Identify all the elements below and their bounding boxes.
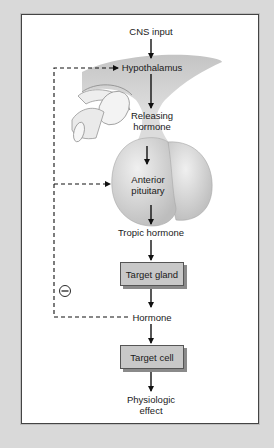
negative-feedback-icon (60, 286, 71, 297)
label-releasing-line2: hormone (122, 121, 182, 132)
label-releasing-line1: Releasing (122, 110, 182, 121)
label-physiologic-line1: Physiologic (118, 394, 184, 405)
label-target-cell: Target cell (130, 352, 173, 363)
label-physiologic-line2: effect (118, 405, 184, 416)
label-anterior-pituitary: Anterior pituitary (118, 174, 178, 196)
box-target-gland: Target gland (120, 262, 184, 286)
label-releasing-hormone: Releasing hormone (122, 110, 182, 132)
box-target-cell: Target cell (120, 345, 184, 369)
label-cns-input: CNS input (121, 26, 181, 37)
label-tropic-hormone: Tropic hormone (110, 227, 192, 238)
label-hypothalamus: Hypothalamus (120, 62, 184, 73)
label-physiologic-effect: Physiologic effect (118, 394, 184, 416)
label-target-gland: Target gland (126, 269, 178, 280)
label-anterior-line2: pituitary (118, 185, 178, 196)
label-anterior-line1: Anterior (118, 174, 178, 185)
label-hormone: Hormone (126, 312, 178, 323)
